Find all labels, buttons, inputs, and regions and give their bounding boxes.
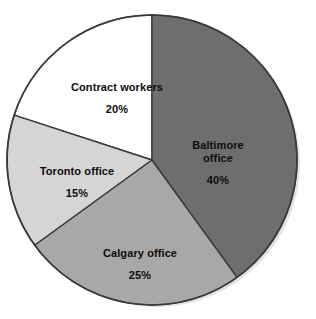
pie-chart: Baltimore office 40% Calgary office 25% …	[0, 0, 316, 319]
pie-chart-canvas	[0, 0, 316, 319]
